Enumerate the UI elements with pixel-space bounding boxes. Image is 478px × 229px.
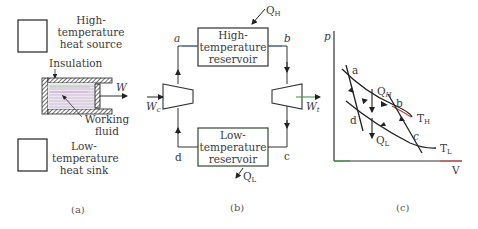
tl-subscript: L bbox=[447, 148, 452, 156]
cold-reservoir-line1: Low- bbox=[198, 129, 268, 141]
th-label: TH bbox=[417, 112, 430, 128]
wt-symbol: W bbox=[306, 100, 317, 112]
th-subscript: H bbox=[424, 118, 430, 126]
point-d-label: d bbox=[350, 114, 357, 126]
working-fluid-line2: fluid bbox=[82, 125, 132, 137]
th-symbol: T bbox=[417, 112, 424, 124]
qh-symbol: Q bbox=[266, 4, 275, 16]
qh-label-c: QH bbox=[377, 85, 392, 101]
hot-reservoir-line2: temperature bbox=[198, 41, 268, 53]
qh-label-b: QH bbox=[266, 4, 281, 20]
ql-subscript: L bbox=[252, 176, 257, 184]
wc-subscript: c bbox=[157, 106, 161, 114]
cold-reservoir-line3: reservoir bbox=[198, 153, 268, 165]
heat-sink-label-line1: Low- bbox=[52, 140, 116, 152]
ql-label-c: QL bbox=[376, 134, 389, 150]
ql-label-b: QL bbox=[243, 170, 256, 186]
working-fluid-label: Working fluid bbox=[82, 113, 132, 137]
wt-label: Wt bbox=[306, 100, 320, 116]
ql-symbol: Q bbox=[243, 170, 252, 182]
heat-source-label-line2: temperature bbox=[56, 26, 126, 38]
heat-sink-label-line2: temperature bbox=[52, 152, 116, 164]
ql-c-symbol: Q bbox=[376, 134, 385, 146]
cold-reservoir-label: Low- temperature reservoir bbox=[198, 129, 268, 165]
point-c-label: c bbox=[413, 130, 419, 142]
qh-c-symbol: Q bbox=[377, 85, 386, 97]
heat-sink-box bbox=[18, 139, 47, 171]
tl-label: TL bbox=[440, 142, 452, 158]
work-label: W bbox=[116, 81, 127, 93]
wt-subscript: t bbox=[317, 106, 320, 114]
qh-c-subscript: H bbox=[386, 91, 392, 99]
node-b-label: b bbox=[284, 32, 291, 44]
p-axis-label: p bbox=[324, 30, 331, 42]
ql-c-subscript: L bbox=[385, 140, 390, 148]
wc-label: Wc bbox=[146, 100, 161, 116]
hot-reservoir-line3: reservoir bbox=[198, 53, 268, 65]
heat-source-label-line1: High- bbox=[56, 14, 126, 26]
cylinder bbox=[42, 78, 127, 117]
compressor bbox=[163, 84, 193, 109]
insulation-label: Insulation bbox=[49, 57, 102, 69]
hot-reservoir-line1: High- bbox=[198, 29, 268, 41]
heat-sink-label: Low- temperature heat sink bbox=[52, 140, 116, 176]
point-b-label: b bbox=[396, 97, 403, 109]
working-fluid-line1: Working bbox=[82, 113, 132, 125]
cold-reservoir-line2: temperature bbox=[198, 141, 268, 153]
heat-source-label: High- temperature heat source bbox=[56, 14, 126, 50]
v-axis-label: V bbox=[452, 164, 460, 176]
heat-source-box bbox=[18, 20, 47, 52]
caption-a: (a) bbox=[71, 204, 85, 215]
hot-reservoir-label: High- temperature reservoir bbox=[198, 29, 268, 65]
heat-source-label-line3: heat source bbox=[56, 38, 126, 50]
heat-sink-label-line3: heat sink bbox=[52, 164, 116, 176]
wc-symbol: W bbox=[146, 100, 157, 112]
node-c-label: c bbox=[284, 150, 290, 162]
qh-subscript: H bbox=[275, 10, 281, 18]
point-a-label: a bbox=[352, 64, 358, 76]
caption-b: (b) bbox=[230, 202, 244, 213]
node-a-label: a bbox=[174, 32, 180, 44]
piston bbox=[95, 84, 100, 108]
tl-symbol: T bbox=[440, 142, 447, 154]
caption-c: (c) bbox=[396, 202, 409, 213]
node-d-label: d bbox=[175, 151, 182, 163]
